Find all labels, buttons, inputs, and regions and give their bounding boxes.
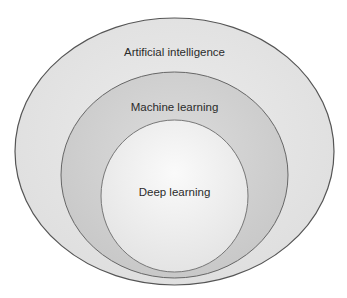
label-machine-learning: Machine learning <box>131 101 219 113</box>
label-deep-learning: Deep learning <box>139 186 211 198</box>
label-artificial-intelligence: Artificial intelligence <box>124 46 225 58</box>
ai-ml-dl-diagram: Artificial intelligence Machine learning… <box>0 0 347 298</box>
